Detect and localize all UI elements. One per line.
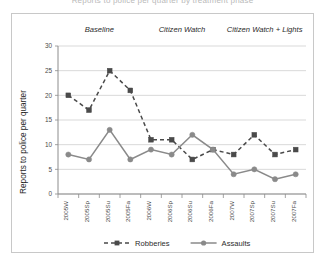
data-point [148, 147, 153, 152]
legend-label: Assaults [222, 239, 251, 248]
legend-item-robberies[interactable]: Robberies [104, 239, 170, 248]
x-tick-labels: 2005W2005Sp2005Su2005Fa2006W2006Sp2006Su… [62, 200, 296, 222]
legend-item-assaults[interactable]: Assaults [191, 239, 251, 248]
y-tick-labels: 051015202530 [45, 42, 53, 197]
data-point [272, 177, 277, 182]
data-point [293, 172, 298, 177]
legend-marker [201, 240, 206, 245]
data-point [128, 157, 133, 162]
x-tick-label: 2006W [145, 201, 152, 221]
x-tick-label: 2005W [62, 201, 69, 221]
x-tick-label: 2007Sp [248, 200, 255, 222]
data-point [210, 147, 215, 152]
data-point [169, 137, 174, 142]
data-point [252, 132, 257, 137]
data-point [231, 152, 236, 157]
y-tick-label: 20 [45, 92, 53, 99]
data-point [128, 88, 133, 93]
y-tick-label: 25 [45, 67, 53, 74]
data-point [66, 152, 71, 157]
y-axis-title-group: Reports to police per quarter [19, 90, 28, 194]
y-axis-title: Reports to police per quarter [19, 90, 28, 194]
data-point [190, 132, 195, 137]
y-tick-label: 5 [48, 166, 52, 173]
data-point [66, 93, 71, 98]
x-tick-label: 2007Fa [290, 200, 297, 222]
data-point [231, 172, 236, 177]
series-assaults [66, 127, 299, 182]
clipped-caption: Reports to police per quarter by treatme… [0, 0, 325, 6]
series-robberies [66, 68, 298, 162]
chart-frame: Reports to police per quarter 0510152025… [11, 13, 314, 253]
series-line [68, 130, 295, 179]
data-point [273, 152, 278, 157]
x-tick-label: 2007W [228, 201, 235, 221]
x-tick-label: 2005Fa [124, 200, 131, 222]
y-tick-label: 15 [45, 116, 53, 123]
data-point [86, 157, 91, 162]
legend-marker [115, 241, 120, 246]
data-point [252, 167, 257, 172]
x-tick-label: 2006Fa [207, 200, 214, 222]
data-point [169, 152, 174, 157]
data-point [149, 137, 154, 142]
phase-label: Baseline [85, 25, 114, 34]
series-line [68, 71, 295, 160]
y-tick-label: 0 [48, 190, 52, 197]
phase-annotations: BaselineCitizen WatchCitizen Watch + Lig… [85, 25, 303, 34]
data-point [190, 157, 195, 162]
phase-label: Citizen Watch + Lights [227, 25, 303, 34]
x-tick-label: 2006Su [186, 200, 193, 222]
x-tick-label: 2005Su [104, 200, 111, 222]
x-tick-label: 2007Su [269, 200, 276, 222]
data-point [293, 147, 298, 152]
y-tick-label: 30 [45, 42, 53, 49]
series-layer [66, 68, 299, 182]
legend-label: Robberies [135, 239, 170, 248]
chart-legend: RobberiesAssaults [104, 239, 251, 248]
data-point [107, 127, 112, 132]
x-tick-label: 2006Sp [166, 200, 173, 222]
data-point [107, 68, 112, 73]
gridlines [58, 46, 306, 194]
line-chart: Reports to police per quarter 0510152025… [12, 14, 313, 252]
phase-label: Citizen Watch [159, 25, 206, 34]
x-tick-marks [58, 194, 306, 198]
x-tick-label: 2005Sp [83, 200, 90, 222]
data-point [87, 108, 92, 113]
y-tick-label: 10 [45, 141, 53, 148]
figure-root: Reports to police per quarter by treatme… [0, 0, 325, 264]
